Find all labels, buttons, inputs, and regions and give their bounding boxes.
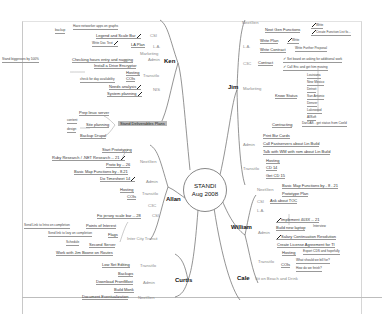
node-prep-linux-server[interactable]: Prep linux server <box>79 110 109 116</box>
node-hosting[interactable]: Hosting <box>282 250 296 256</box>
node-cois[interactable]: COIs <box>127 194 136 200</box>
category-marketing: Marketing <box>243 86 261 91</box>
node-prototype-plan[interactable]: Prototype Plan <box>282 191 308 197</box>
node-ken[interactable]: Ken <box>164 59 175 64</box>
node-william[interactable]: William <box>231 225 252 230</box>
node-jim[interactable]: Jim <box>228 85 238 90</box>
category-nextgen: NextGen <box>257 187 274 192</box>
central-node[interactable]: STANDI Aug 2008 <box>183 168 227 212</box>
node-contracting[interactable]: Contracting <box>272 122 292 128</box>
node-next-gen-functions[interactable]: Next Gen Functions <box>265 27 300 33</box>
node-create-license[interactable]: Create License Agreement for TI <box>277 242 335 248</box>
node-print-biz-cards[interactable]: Print Biz Cards <box>263 133 290 139</box>
node-schedule[interactable]: Schedule <box>66 240 79 246</box>
node-label: Legend and Scale Bar <box>96 33 136 38</box>
node-laptop-note[interactable]: Interview <box>313 224 326 229</box>
node-low-set-editing[interactable]: Low Set Editing <box>102 262 130 268</box>
node-label: Ruby Research / .NET Research -- 21 <box>52 155 120 160</box>
node-points-of-interest[interactable]: Points of Interest <box>86 223 116 229</box>
node-backup-note[interactable]: Have networker apps on graphs <box>73 24 118 30</box>
pencil-icon <box>121 156 125 160</box>
node-basic-map-functions[interactable]: Basic Map Functions by - 8.21 <box>74 169 128 175</box>
node-cale-note[interactable]: Sit on Beach and Drink <box>255 276 298 281</box>
node-city-2[interactable]: Detroit <box>307 87 316 93</box>
category-la: L.A. <box>243 44 250 49</box>
node-implement[interactable]: Implement 403X -- 21 <box>276 217 319 223</box>
node-city-4[interactable]: Denver <box>307 101 317 107</box>
node-talk-with-wm[interactable]: Talk with WM with rom about Lin Build <box>263 149 330 155</box>
node-contract[interactable]: Contract <box>258 60 273 66</box>
node-cois[interactable]: COIs <box>126 76 135 82</box>
pencil-icon <box>137 85 141 89</box>
node-cd-14[interactable]: CD 14 <box>266 165 277 171</box>
node-cale[interactable]: Cale <box>237 276 250 281</box>
node-document[interactable]: Document Eventualization <box>82 294 128 300</box>
category-la: L.A. <box>257 208 264 213</box>
node-flags[interactable]: Flags <box>108 232 118 238</box>
node-backups[interactable]: Backups <box>118 271 133 277</box>
pencil-icon <box>114 41 118 45</box>
node-ruby-research[interactable]: Ruby Research / .NET Research -- 21 <box>52 155 125 161</box>
node-city-0[interactable]: Louisiana <box>307 73 321 79</box>
node-create-function-list[interactable]: Create Function List fo... <box>311 30 351 36</box>
node-build-new-laptop[interactable]: Build new laptop <box>276 225 305 231</box>
node-needs-analysis[interactable]: Needs analysis <box>109 84 141 90</box>
node-hosting[interactable]: Hosting <box>120 187 134 193</box>
node-hosting[interactable]: Hosting <box>266 158 280 164</box>
node-cois[interactable]: COIs <box>281 262 290 268</box>
node-get-cd-15[interactable]: Get CD 15 <box>266 173 285 179</box>
node-work-with-jim[interactable]: Work with Jim Boone on Routes <box>56 250 113 256</box>
node-allan[interactable]: Allan <box>166 197 181 202</box>
node-curtis[interactable]: Curtis <box>175 278 192 283</box>
node-contract-task-1[interactable]: ✓Set board on asking for additional work <box>283 56 342 63</box>
node-backup-drupal[interactable]: Backup Drupal <box>80 133 106 139</box>
node-poi-note[interactable]: Send Link to Intro on completion <box>24 223 70 229</box>
node-city-5[interactable]: Lakewood <box>307 108 322 114</box>
node-cois-question-2[interactable]: How do we finish? <box>296 266 322 272</box>
node-flags-note[interactable]: Send link to Izzy on completion <box>48 231 92 237</box>
node-label: Implement 403X -- 21 <box>281 217 319 222</box>
node-write-contract[interactable]: Write Contract <box>260 47 286 53</box>
node-write-plan[interactable]: Write Plan <box>260 38 278 44</box>
node-install-drive-encryptor[interactable]: Install a Drive Encryptor <box>94 63 136 69</box>
node-design[interactable]: design <box>67 127 76 133</box>
node-second-server[interactable]: Second Server <box>89 242 115 248</box>
node-do-timesheet[interactable]: Do Timesheet 14 <box>100 176 135 182</box>
node-ask-about-toc[interactable]: Ask about TOC <box>270 198 297 204</box>
node-download-frontmost[interactable]: Download FrontMost <box>96 279 133 285</box>
node-proto-by[interactable]: Proto by -- 26 <box>106 162 130 168</box>
node-write-doc-text[interactable]: Write Doc Text <box>92 41 118 47</box>
category-admin: Admin <box>258 230 270 235</box>
node-write[interactable]: Write <box>311 23 323 29</box>
category-marketing: Marketing <box>140 51 158 56</box>
node-content[interactable]: content <box>67 118 77 124</box>
category-nextgen: NextGen <box>138 295 155 300</box>
node-call-fastservers[interactable]: Call Fastservers about Lin Build <box>263 141 319 147</box>
node-build-monk[interactable]: Build Monk <box>114 287 134 293</box>
node-highlighted[interactable]: Stand Deliverables Plans <box>118 121 167 126</box>
pencil-icon <box>131 177 135 181</box>
node-hosting-note[interactable]: Export CDS and hopefully <box>303 249 340 255</box>
node-site-planning[interactable]: Site planning <box>86 122 109 128</box>
node-contracting-note[interactable]: DarDAS - get status from Coeld <box>302 121 347 127</box>
node-write-further-proposal[interactable]: Write Further Proposal <box>295 46 327 52</box>
node-fix-jersey[interactable]: Fix jersey scale bar -- 28 <box>97 213 141 219</box>
category-csi: CSI <box>150 33 157 38</box>
node-system-planning[interactable]: System planning <box>107 91 142 97</box>
node-label: Write Doc Text <box>92 41 113 45</box>
node-contract-task-2[interactable]: ✓Call Eric and get him moving <box>283 64 328 71</box>
node-checking-note[interactable]: Stand biggesses by 100% <box>2 57 39 63</box>
node-city-3[interactable]: San Antonio <box>307 94 324 100</box>
node-la-plan[interactable]: LA Plan <box>131 42 145 48</box>
node-legend-scale-bar[interactable]: Legend and Scale Bar <box>96 33 141 39</box>
node-check-day[interactable]: check for day availability <box>80 77 115 83</box>
node-write-2[interactable]: Write <box>287 38 299 44</box>
node-cois-question-1[interactable]: What should we bill for? <box>296 258 330 264</box>
node-salary-continuation[interactable]: Salary Continuation Resolution <box>276 234 336 240</box>
node-start-prototyping[interactable]: Start Prototyping <box>102 147 132 153</box>
node-city-1[interactable]: New Mexico <box>307 80 324 86</box>
node-know-status[interactable]: Know Status <box>275 93 297 99</box>
category-la: L.A. <box>153 44 160 49</box>
node-basic-map-functions[interactable]: Basic Map Functions by - 8 . 21 <box>282 183 338 189</box>
node-backup[interactable]: backup <box>55 28 65 34</box>
